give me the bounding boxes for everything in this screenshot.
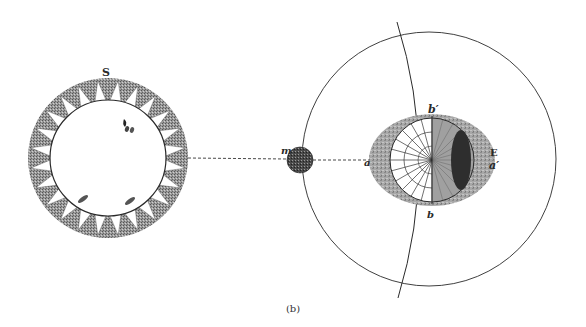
moon-label: m <box>281 145 292 156</box>
sun-moon-line <box>188 158 287 159</box>
sun-disk <box>50 100 166 216</box>
sun <box>28 78 188 238</box>
earth <box>369 114 495 206</box>
point-b-label: b <box>427 209 434 220</box>
point-b-prime-label: b′ <box>428 103 439 116</box>
point-a-prime-label: a′ <box>489 159 499 172</box>
diagram-canvas: S m b′ b a E a′ <box>0 0 586 327</box>
sun-label: S <box>102 66 110 79</box>
earth-dark-region <box>451 130 471 190</box>
figure-caption: (b) <box>0 303 586 314</box>
earth-label: E <box>490 147 498 158</box>
point-a-label: a <box>364 157 370 168</box>
